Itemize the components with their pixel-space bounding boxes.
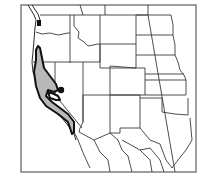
isolated-occurrence-marker: [58, 87, 64, 93]
northern-occurrence-marker: [37, 20, 41, 26]
range-map: [0, 0, 205, 182]
